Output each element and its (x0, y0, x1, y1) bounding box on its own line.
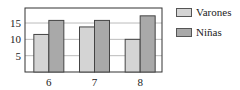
y-tick-label: 10 (10, 33, 22, 45)
bar-varones-8 (125, 39, 140, 72)
y-tick-label: 5 (16, 50, 22, 62)
bar-ninas-6 (49, 20, 64, 72)
bar-ninas-7 (95, 20, 110, 72)
y-tick-label: 15 (10, 17, 22, 29)
legend-label-varones: Varones (196, 6, 231, 18)
x-tick-label: 6 (46, 76, 52, 88)
bar-varones-7 (80, 27, 95, 72)
legend-label-ninas: Niñas (196, 26, 222, 38)
legend-item-varones: Varones (176, 5, 231, 19)
legend-item-ninas: Niñas (176, 25, 231, 39)
legend-swatch-varones (176, 8, 192, 17)
x-tick-label: 7 (92, 76, 98, 88)
bar-varones-6 (34, 34, 49, 72)
legend-swatch-ninas (176, 28, 192, 37)
legend: Varones Niñas (176, 5, 231, 45)
x-tick-label: 8 (137, 76, 143, 88)
bar-ninas-8 (140, 16, 155, 72)
